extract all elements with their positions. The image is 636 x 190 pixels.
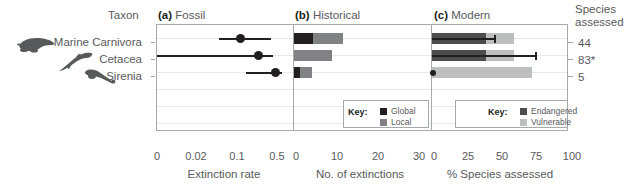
legend-b-title: Key: (348, 107, 368, 117)
taxon-label-sirenia: Sirenia (106, 70, 142, 82)
species-assessed-value-sirenia: 5 (578, 71, 584, 83)
taxon-row: Cetacea (0, 53, 148, 67)
taxon-label-marine-carnivora: Marine Carnivora (54, 36, 142, 48)
panel-a-header: (a) Fossil (158, 9, 205, 21)
modern-bar-vulnerable (432, 67, 532, 78)
species-tick (568, 59, 573, 60)
legend-modern: Key: Endangered Vulnerable (455, 100, 568, 128)
tick-b-0: 0 (293, 150, 299, 162)
historical-bar-global (294, 33, 313, 44)
species-tick (568, 76, 573, 77)
modern-point-marker (430, 70, 436, 76)
legend-b-item-global: Global (380, 106, 416, 116)
species-assessed-header: Species assessed (575, 3, 624, 29)
panel-b-title: Historical (313, 9, 360, 21)
tick-c-3: 75 (530, 150, 542, 162)
row-tick (151, 76, 155, 77)
legend-c-label-endangered: Endangered (531, 106, 577, 116)
legend-c-label-vulnerable: Vulnerable (531, 117, 571, 127)
taxon-row: Marine Carnivora (0, 36, 148, 50)
data-row-cetacea (157, 47, 567, 64)
swatch-endangered-icon (520, 108, 527, 115)
modern-error-cap (535, 52, 537, 60)
axis-title-fossil: Extinction rate (188, 168, 261, 180)
tick-a-0: 0 (154, 150, 160, 162)
row-tick (151, 42, 155, 43)
axis-title-modern: % Species assessed (447, 168, 553, 180)
legend-b-item-local: Local (380, 117, 411, 127)
fossil-point-estimate (271, 68, 280, 77)
panel-c-title: Modern (451, 9, 490, 21)
tick-c-4: 100 (563, 150, 581, 162)
fossil-error-bar (219, 38, 271, 40)
swatch-local-icon (380, 119, 387, 126)
modern-error-cap (494, 35, 496, 43)
legend-c-item-endangered: Endangered (520, 106, 577, 116)
modern-error-bar (432, 38, 496, 40)
modern-error-bar (432, 55, 537, 57)
species-tick (568, 42, 573, 43)
row-tick (151, 59, 155, 60)
legend-c-title: Key: (488, 107, 508, 117)
fossil-point-estimate (236, 34, 245, 43)
tick-b-1: 10 (331, 150, 343, 162)
data-row-marine-carnivora (157, 30, 567, 47)
tick-b-2: 20 (372, 150, 384, 162)
data-row-sirenia (157, 64, 567, 81)
figure-root: Taxon (a) Fossil (b) Historical (c) Mode… (0, 0, 636, 190)
species-assessed-header-line2: assessed (575, 16, 624, 29)
tick-a-2: 0.1 (229, 150, 244, 162)
tick-a-1: 0.02 (185, 150, 206, 162)
gridline (157, 89, 567, 90)
panel-c-tag: (c) (434, 9, 448, 21)
legend-c-item-vulnerable: Vulnerable (520, 117, 571, 127)
panel-b-header: (b) Historical (295, 9, 360, 21)
species-assessed-value-cetacea: 83* (578, 54, 595, 66)
swatch-vulnerable-icon (520, 119, 527, 126)
panel-b-tag: (b) (295, 9, 310, 21)
legend-b-label-global: Global (391, 106, 416, 116)
species-assessed-value-marine-carnivora: 44 (578, 37, 591, 49)
fossil-point-estimate (254, 51, 263, 60)
legend-b-label-local: Local (391, 117, 411, 127)
tick-c-0: 0 (431, 150, 437, 162)
taxon-column-header: Taxon (108, 9, 139, 21)
tick-a-3: 0.5 (269, 150, 284, 162)
legend-historical: Key: Global Local (343, 100, 429, 128)
axis-title-historical: No. of extinctions (316, 168, 404, 180)
tick-b-3: 30 (413, 150, 425, 162)
panel-a-tag: (a) (158, 9, 172, 21)
historical-bar-local (313, 33, 343, 44)
tick-c-2: 50 (496, 150, 508, 162)
species-assessed-header-line1: Species (575, 3, 624, 16)
panel-c-header: (c) Modern (434, 9, 490, 21)
swatch-global-icon (380, 108, 387, 115)
tick-c-1: 25 (462, 150, 474, 162)
historical-bar-local (300, 67, 312, 78)
taxon-row: Sirenia (0, 70, 148, 84)
historical-bar-local (294, 50, 332, 61)
taxon-label-cetacea: Cetacea (99, 53, 142, 65)
panel-a-title: Fossil (175, 9, 205, 21)
